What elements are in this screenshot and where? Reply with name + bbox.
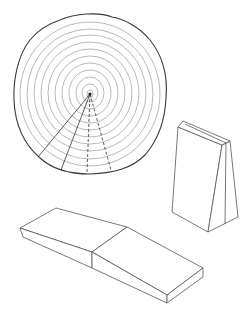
pith-dot <box>88 92 91 95</box>
wedge-block <box>172 121 238 232</box>
sloped-slab <box>20 208 203 303</box>
log-cross-section <box>14 14 167 174</box>
radial-cuts <box>38 94 111 173</box>
illustration <box>0 0 247 321</box>
illustration-svg <box>0 0 247 321</box>
ray-3 <box>87 94 90 173</box>
